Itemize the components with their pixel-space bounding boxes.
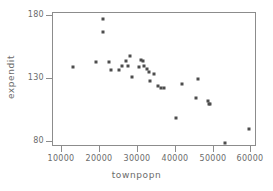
data-point — [129, 54, 132, 57]
data-point — [95, 61, 98, 64]
data-point — [137, 66, 140, 69]
data-point — [145, 67, 148, 70]
x-axis-tick-label: 20000 — [86, 154, 113, 163]
data-point — [142, 60, 145, 63]
data-point — [247, 128, 250, 131]
y-axis-tick-label: 80 — [33, 136, 44, 145]
data-point — [121, 65, 124, 68]
y-axis-tick-label: 180 — [28, 10, 44, 19]
x-axis-title: townpopn — [0, 170, 273, 180]
data-point — [110, 68, 113, 71]
data-point — [127, 65, 130, 68]
data-point — [101, 18, 104, 21]
data-point — [162, 86, 165, 89]
y-axis-tick — [46, 141, 52, 142]
plot-area-frame — [52, 12, 256, 146]
data-point — [195, 96, 198, 99]
data-point — [148, 80, 151, 83]
data-point — [101, 30, 104, 33]
x-axis-tick-label: 50000 — [200, 154, 227, 163]
x-axis-tick-label: 40000 — [162, 154, 189, 163]
x-axis-tick — [61, 146, 62, 152]
x-axis-tick — [137, 146, 138, 152]
x-axis-tick-label: 30000 — [124, 154, 151, 163]
data-point — [147, 71, 150, 74]
y-axis-title: expendit — [6, 42, 16, 112]
data-point — [107, 61, 110, 64]
data-point — [72, 66, 75, 69]
data-point — [174, 116, 177, 119]
x-axis-tick — [175, 146, 176, 152]
data-point — [181, 82, 184, 85]
data-point — [125, 60, 128, 63]
x-axis-tick-label: 10000 — [48, 154, 75, 163]
x-axis-tick — [213, 146, 214, 152]
data-point — [152, 72, 155, 75]
data-point — [208, 103, 211, 106]
y-axis-tick — [46, 78, 52, 79]
data-point — [118, 68, 121, 71]
scatter-plot-figure: 80130180 100002000030000400005000060000 … — [0, 0, 273, 191]
data-points-layer — [53, 13, 255, 145]
x-axis-tick — [250, 146, 251, 152]
data-point — [130, 76, 133, 79]
data-point — [223, 142, 226, 145]
y-axis-tick-label: 130 — [28, 73, 44, 82]
y-axis-tick — [46, 15, 52, 16]
data-point — [197, 77, 200, 80]
x-axis-tick — [99, 146, 100, 152]
x-axis-tick-label: 60000 — [237, 154, 264, 163]
